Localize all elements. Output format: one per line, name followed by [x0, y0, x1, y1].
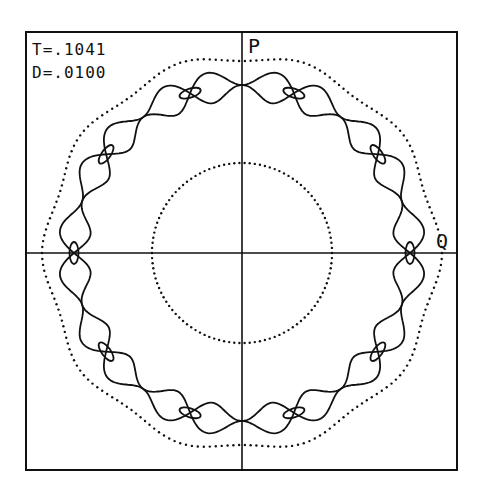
p-axis-label: P [248, 36, 260, 56]
d-parameter-label: D=.0100 [32, 65, 106, 81]
q-axis-label: Q [436, 231, 448, 251]
t-parameter-label: T=.1041 [32, 42, 106, 58]
